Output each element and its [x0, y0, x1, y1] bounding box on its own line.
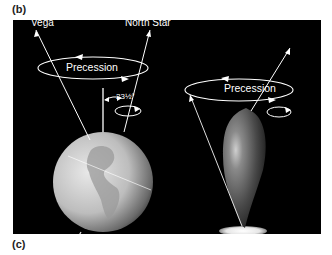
- label-north-star: North Star: [125, 20, 171, 28]
- axis-to-north-star: [124, 30, 150, 132]
- panel-label-b: (b): [12, 3, 26, 15]
- label-tilt-angle: 23½°: [116, 92, 135, 101]
- top-contact-spotlight: [219, 226, 267, 234]
- earth-axis-bottom: [73, 232, 81, 234]
- panel-label-c: (c): [12, 238, 25, 250]
- precession-diagram-panel: Vega North Star Precession 23½° Precessi…: [13, 20, 321, 234]
- label-precession-top: Precession: [224, 82, 276, 94]
- axis-to-vega: [36, 30, 90, 140]
- diagram-graphics: [13, 20, 321, 234]
- label-vega: Vega: [31, 20, 54, 28]
- spinning-top-body: [223, 108, 266, 228]
- label-precession-earth: Precession: [66, 61, 118, 73]
- spinning-top-diagram: [185, 48, 293, 234]
